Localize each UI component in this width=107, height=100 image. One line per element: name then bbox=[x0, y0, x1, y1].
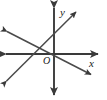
x-axis-label: x bbox=[88, 57, 94, 69]
axes-group bbox=[6, 8, 98, 95]
y-axis-label: y bbox=[59, 6, 65, 18]
coordinate-plane-figure: y x O bbox=[0, 0, 107, 100]
lines-group bbox=[7, 12, 92, 81]
coordinate-plane-canvas: y x O bbox=[0, 0, 107, 100]
origin-label: O bbox=[43, 55, 50, 66]
line-positive-slope bbox=[7, 12, 77, 81]
